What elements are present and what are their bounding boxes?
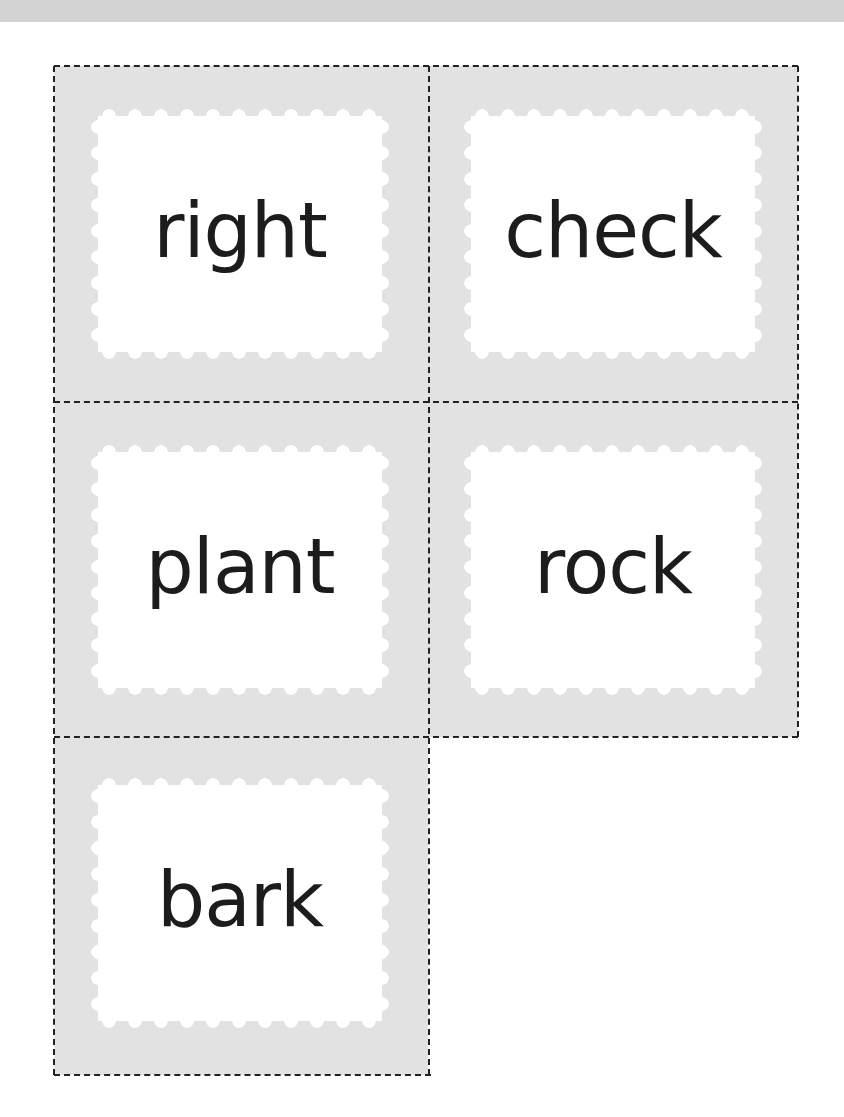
card-word: bark xyxy=(98,785,382,1021)
cut-line-right xyxy=(797,66,799,737)
stamp-frame: check xyxy=(471,116,755,352)
stamp-frame: plant xyxy=(98,452,382,688)
stamp-frame: bark xyxy=(98,785,382,1021)
card-word: right xyxy=(98,116,382,352)
cut-line-bottom xyxy=(54,1074,431,1076)
cut-line-top xyxy=(54,65,798,67)
card-word: plant xyxy=(98,452,382,688)
cut-line-row1 xyxy=(54,401,798,403)
word-card-5: bark xyxy=(54,737,428,1075)
card-word: check xyxy=(471,116,755,352)
cut-line-row2 xyxy=(54,736,798,738)
top-band xyxy=(0,0,844,22)
stamp-frame: rock xyxy=(471,452,755,688)
word-card-4: rock xyxy=(428,402,798,737)
word-card-2: check xyxy=(428,66,798,402)
cut-line-left xyxy=(53,66,55,1075)
card-word: rock xyxy=(471,452,755,688)
stamp-frame: right xyxy=(98,116,382,352)
word-card-3: plant xyxy=(54,402,428,737)
word-card-1: right xyxy=(54,66,428,402)
cut-line-middle xyxy=(428,66,430,1075)
